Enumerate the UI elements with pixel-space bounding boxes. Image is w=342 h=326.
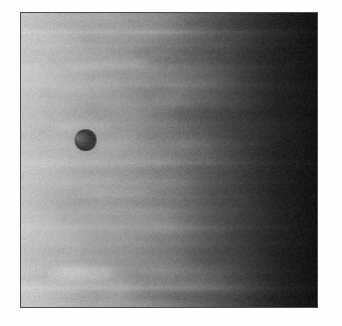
photo-frame [20, 12, 318, 308]
jupiter-cloud-bands-photo [21, 13, 317, 307]
image-page: Grayscale close-up of banded gas-giant c… [0, 0, 342, 326]
photo-alt-text: Grayscale close-up of banded gas-giant c… [0, 0, 1, 1]
